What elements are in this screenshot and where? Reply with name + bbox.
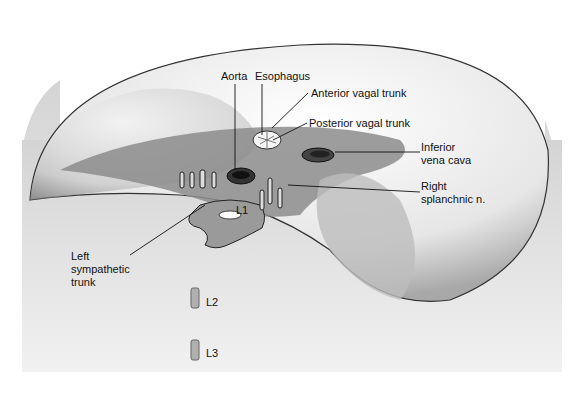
label-left-sympathetic-3: trunk bbox=[71, 276, 95, 289]
vertebra-l3 bbox=[191, 340, 199, 360]
label-inferior-vena-cava-2: vena cava bbox=[421, 154, 471, 167]
label-right-splanchnic-1: Right bbox=[421, 180, 447, 193]
label-anterior-vagal-trunk: Anterior vagal trunk bbox=[311, 87, 406, 100]
label-l2: L2 bbox=[206, 296, 218, 309]
diaphragm-illustration bbox=[0, 0, 586, 401]
label-l3: L3 bbox=[206, 347, 218, 360]
label-left-sympathetic-1: Left bbox=[71, 250, 89, 263]
vertebra-l2 bbox=[191, 288, 199, 308]
label-l1: L1 bbox=[236, 204, 248, 217]
label-inferior-vena-cava-1: Inferior bbox=[421, 141, 455, 154]
label-aorta: Aorta bbox=[221, 70, 247, 83]
label-right-splanchnic-2: splanchnic n. bbox=[421, 193, 485, 206]
label-esophagus: Esophagus bbox=[255, 70, 310, 83]
anatomy-figure: Aorta Esophagus Anterior vagal trunk Pos… bbox=[0, 0, 586, 401]
label-left-sympathetic-2: sympathetic bbox=[71, 263, 130, 276]
label-posterior-vagal-trunk: Posterior vagal trunk bbox=[309, 117, 410, 130]
